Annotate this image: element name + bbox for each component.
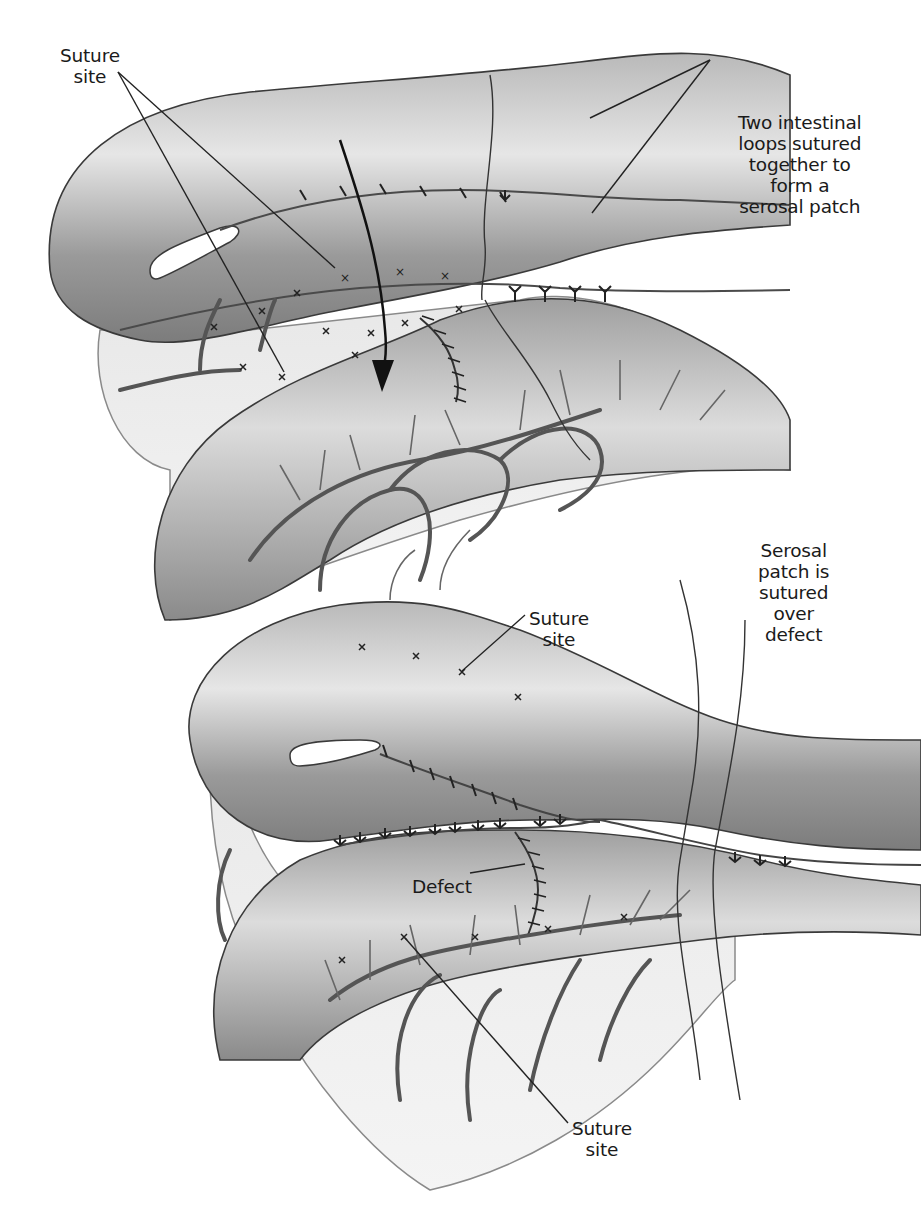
label-suture-site-mid: Suture site bbox=[529, 608, 589, 650]
label-two-intestinal-loops: Two intestinal loops sutured together to… bbox=[738, 112, 862, 217]
label-suture-site-top: Suture site bbox=[60, 45, 120, 87]
label-line: site bbox=[572, 1139, 632, 1160]
label-line: serosal patch bbox=[738, 196, 862, 217]
label-line: defect bbox=[758, 624, 829, 645]
label-line: over bbox=[758, 603, 829, 624]
label-line: Suture bbox=[529, 608, 589, 629]
svg-text:×: × bbox=[440, 269, 450, 283]
top-panel: ××× bbox=[49, 53, 790, 620]
label-line: patch is bbox=[758, 561, 829, 582]
label-line: loops sutured bbox=[738, 133, 862, 154]
label-defect: Defect bbox=[412, 876, 472, 897]
bottom-panel bbox=[189, 580, 921, 1190]
label-line: sutured bbox=[758, 582, 829, 603]
label-serosal-patch: Serosal patch is sutured over defect bbox=[758, 540, 829, 645]
label-line: Defect bbox=[412, 876, 472, 897]
label-line: site bbox=[60, 66, 120, 87]
label-line: Suture bbox=[572, 1118, 632, 1139]
svg-text:×: × bbox=[395, 265, 405, 279]
label-line: together to bbox=[738, 154, 862, 175]
svg-text:×: × bbox=[340, 271, 350, 285]
label-line: Suture bbox=[60, 45, 120, 66]
upper-intestinal-loop bbox=[49, 53, 790, 342]
label-line: Serosal bbox=[758, 540, 829, 561]
label-line: Two intestinal bbox=[738, 112, 862, 133]
label-line: site bbox=[529, 629, 589, 650]
label-line: form a bbox=[738, 175, 862, 196]
label-suture-site-bottom: Suture site bbox=[572, 1118, 632, 1160]
